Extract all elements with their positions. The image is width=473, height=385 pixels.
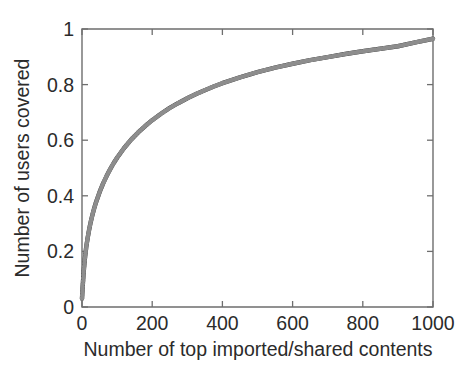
y-axis-title: Number of users covered xyxy=(11,59,33,278)
x-tick-label: 800 xyxy=(347,312,380,334)
x-tick-label: 400 xyxy=(206,312,239,334)
x-tick-label: 1000 xyxy=(411,312,455,334)
x-tick-label: 200 xyxy=(136,312,169,334)
y-tick-label: 1 xyxy=(63,18,74,40)
y-tick-label: 0.4 xyxy=(47,185,74,207)
y-axis-tick-labels: 00.20.40.60.81 xyxy=(47,18,74,318)
y-tick-label: 0.8 xyxy=(47,74,74,96)
x-axis-tick-labels: 02004006008001000 xyxy=(77,312,455,334)
x-tick-label: 600 xyxy=(276,312,309,334)
y-tick-label: 0.2 xyxy=(47,240,74,262)
y-tick-label: 0.6 xyxy=(47,129,74,151)
y-tick-label: 0 xyxy=(63,296,74,318)
data-series-coverage xyxy=(82,39,433,299)
x-axis-title: Number of top imported/shared contents xyxy=(83,338,432,360)
chart-canvas: 02004006008001000 00.20.40.60.81 Number … xyxy=(0,0,473,385)
x-tick-label: 0 xyxy=(77,312,88,334)
figure-container: 02004006008001000 00.20.40.60.81 Number … xyxy=(0,0,473,385)
